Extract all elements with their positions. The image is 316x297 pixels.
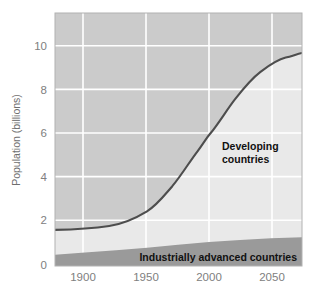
industrially-advanced-countries-label-text: Industrially advanced countries — [139, 251, 297, 263]
plot-area: Developing countries Industrially advanc… — [55, 13, 302, 266]
x-tick-label-1900: 1900 — [70, 271, 96, 283]
figure-container: Developing countries Industrially advanc… — [0, 0, 316, 297]
y-axis-title: Population (billions) — [10, 94, 22, 186]
x-tick-label-2050: 2050 — [259, 271, 285, 283]
x-tick-label-1950: 1950 — [133, 271, 159, 283]
y-tick-label-2: 2 — [41, 214, 47, 226]
developing-countries-label-line2: countries — [222, 153, 269, 165]
y-tick-label-8: 8 — [41, 84, 47, 96]
y-tick-label-4: 4 — [41, 171, 48, 183]
y-tick-label-0: 0 — [41, 259, 47, 271]
developing-countries-label-line1: Developing — [222, 140, 279, 152]
population-growth-chart: Developing countries Industrially advanc… — [0, 0, 316, 297]
x-tick-label-2000: 2000 — [196, 271, 222, 283]
y-tick-label-6: 6 — [41, 127, 47, 139]
y-tick-label-10: 10 — [34, 40, 47, 52]
